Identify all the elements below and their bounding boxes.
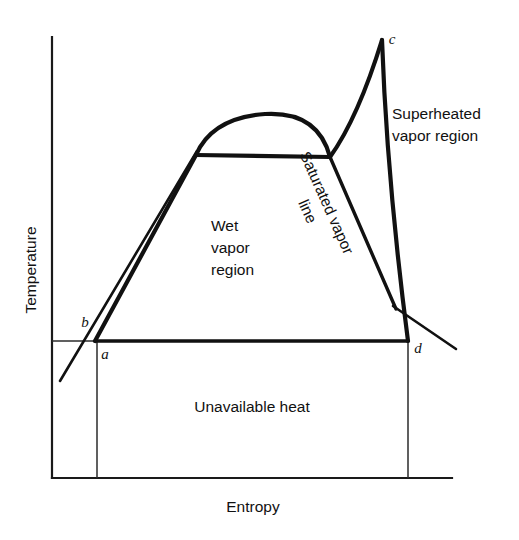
wet-vapor-line-1: Wet — [211, 217, 239, 234]
cycle-path-group — [95, 40, 408, 341]
unavailable-heat-label: Unavailable heat — [194, 398, 310, 415]
wet-vapor-line-2: vapor — [211, 239, 250, 256]
wet-vapor-line-3: region — [211, 261, 254, 278]
saturated-vapor-construction-line — [60, 151, 197, 381]
superheated-vapor-region-label: Superheated vapor region — [392, 105, 481, 144]
x-axis-label: Entropy — [226, 498, 280, 515]
expansion-line-c-to-d — [382, 40, 408, 341]
saturated-vapor-label-line-2: line — [295, 197, 320, 226]
wet-vapor-region-label: Wet vapor region — [211, 217, 254, 278]
ts-diagram: Temperature Entropy Wet vapor region Sup… — [0, 0, 519, 540]
figure-container: Temperature Entropy Wet vapor region Sup… — [0, 0, 519, 540]
state-point-label-d: d — [414, 340, 422, 356]
state-point-label-a: a — [101, 346, 109, 362]
state-point-label-b: b — [81, 314, 89, 330]
extension-lines-group — [60, 151, 456, 381]
superheat-line-to-c — [330, 40, 382, 157]
state-point-label-c: c — [389, 31, 396, 47]
superheated-line-2: vapor region — [392, 127, 478, 144]
superheated-line-1: Superheated — [392, 105, 481, 122]
y-axis-label: Temperature — [22, 226, 39, 313]
saturated-vapor-line-label: Saturated vapor line — [278, 149, 358, 265]
